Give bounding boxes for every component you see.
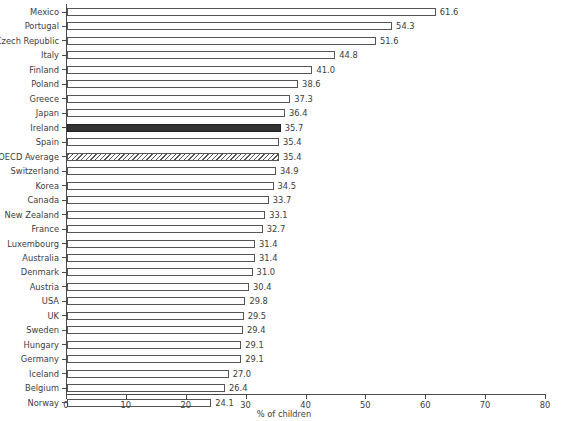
- bar-row: Switzerland34.9: [0, 164, 568, 178]
- bar-row: Greece37.3: [0, 92, 568, 106]
- category-label: Switzerland: [0, 164, 59, 178]
- bar: [67, 211, 265, 219]
- bar-row: Japan36.4: [0, 106, 568, 120]
- category-label: Hungary: [0, 338, 59, 352]
- bar-value-label: 31.0: [257, 265, 275, 279]
- bar-value-label: 34.9: [280, 164, 298, 178]
- category-label: Mexico: [0, 5, 59, 19]
- bar: [67, 8, 436, 16]
- bar-value-label: 34.5: [278, 179, 296, 193]
- bar-value-label: 27.0: [233, 367, 251, 381]
- bar: [67, 355, 241, 363]
- bar-row: Italy44.8: [0, 48, 568, 62]
- bar-value-label: 33.7: [273, 193, 291, 207]
- category-label: Portugal: [0, 19, 59, 33]
- category-label: Austria: [0, 280, 59, 294]
- bar: [67, 268, 253, 276]
- x-axis-tick: [425, 394, 426, 399]
- bar-value-label: 61.6: [440, 5, 458, 19]
- bar: [67, 182, 274, 190]
- bar: [67, 240, 255, 248]
- category-label: New Zealand: [0, 208, 59, 222]
- bar: [67, 341, 241, 349]
- category-label: Luxembourg: [0, 237, 59, 251]
- bar-value-label: 31.4: [259, 237, 277, 251]
- bar-row: OECD Average35.4: [0, 150, 568, 164]
- bar-row: Austria30.4: [0, 280, 568, 294]
- bar-chart: Mexico61.6Portugal54.3Czech Republic51.6…: [0, 0, 568, 421]
- bar-row: Mexico61.6: [0, 5, 568, 19]
- bar: [67, 37, 376, 45]
- bar-row: New Zealand33.1: [0, 208, 568, 222]
- category-label: Japan: [0, 106, 59, 120]
- bar: [67, 225, 263, 233]
- x-axis-tick: [365, 394, 366, 399]
- category-label: France: [0, 222, 59, 236]
- bar-value-label: 54.3: [396, 19, 414, 33]
- bar-row: Iceland27.0: [0, 367, 568, 381]
- bar: [67, 384, 225, 392]
- bar-row: Korea34.5: [0, 179, 568, 193]
- bar: [67, 167, 276, 175]
- bar: [67, 370, 229, 378]
- x-axis-tick: [126, 394, 127, 399]
- bar: [67, 326, 243, 334]
- x-axis-title: % of children: [0, 409, 568, 420]
- x-axis-tick: [246, 394, 247, 399]
- bar-value-label: 31.4: [259, 251, 277, 265]
- bar-row: Finland41.0: [0, 63, 568, 77]
- bar-value-label: 29.1: [245, 352, 263, 366]
- category-label: Sweden: [0, 323, 59, 337]
- bar-row: Spain35.4: [0, 135, 568, 149]
- x-axis-tick: [66, 394, 67, 399]
- bar: [67, 66, 312, 74]
- category-label: OECD Average: [0, 150, 59, 164]
- bar: [67, 153, 279, 161]
- bar: [67, 196, 269, 204]
- bar-row: Czech Republic51.6: [0, 34, 568, 48]
- bar-row: Germany29.1: [0, 352, 568, 366]
- bar-value-label: 30.4: [253, 280, 271, 294]
- x-axis-tick: [485, 394, 486, 399]
- bar: [67, 95, 290, 103]
- bar-value-label: 44.8: [339, 48, 357, 62]
- bar-value-label: 51.6: [380, 34, 398, 48]
- category-label: Australia: [0, 251, 59, 265]
- bar-value-label: 36.4: [289, 106, 307, 120]
- bar: [67, 22, 392, 30]
- bar: [67, 297, 245, 305]
- category-label: Iceland: [0, 367, 59, 381]
- bar-value-label: 38.6: [302, 77, 320, 91]
- bar: [67, 109, 285, 117]
- bar-value-label: 29.5: [248, 309, 266, 323]
- bar-row: Belgium26.4: [0, 381, 568, 395]
- category-label: Germany: [0, 352, 59, 366]
- category-label: Ireland: [0, 121, 59, 135]
- category-label: Denmark: [0, 265, 59, 279]
- bar-row: Poland38.6: [0, 77, 568, 91]
- bar-row: Denmark31.0: [0, 265, 568, 279]
- category-label: Belgium: [0, 381, 59, 395]
- x-axis-tick: [306, 394, 307, 399]
- bar-value-label: 37.3: [294, 92, 312, 106]
- bar-row: France32.7: [0, 222, 568, 236]
- x-axis-tick: [186, 394, 187, 399]
- category-label: Poland: [0, 77, 59, 91]
- bar-row: Portugal54.3: [0, 19, 568, 33]
- bar-row: Canada33.7: [0, 193, 568, 207]
- category-label: Spain: [0, 135, 59, 149]
- bar-value-label: 41.0: [316, 63, 334, 77]
- category-label: Korea: [0, 179, 59, 193]
- category-label: Czech Republic: [0, 34, 59, 48]
- bar: [67, 283, 249, 291]
- bar-value-label: 35.4: [283, 135, 301, 149]
- bar-row: Sweden29.4: [0, 323, 568, 337]
- bar-row: USA29.8: [0, 294, 568, 308]
- x-axis-tick: [545, 394, 546, 399]
- bar: [67, 51, 335, 59]
- category-label: Finland: [0, 63, 59, 77]
- bar: [67, 254, 255, 262]
- category-label: USA: [0, 294, 59, 308]
- bar-value-label: 29.1: [245, 338, 263, 352]
- category-label: Canada: [0, 193, 59, 207]
